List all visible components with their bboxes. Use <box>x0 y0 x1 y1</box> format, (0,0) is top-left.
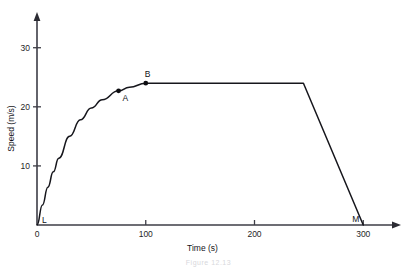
point-marker-B <box>143 81 148 86</box>
y-axis-arrowhead <box>34 12 41 21</box>
speed-time-chart: 0100200300 102030 Time (s) Speed (m/s) L… <box>0 0 417 258</box>
figure-caption: Figure 12.13 <box>0 259 417 267</box>
point-marker-A <box>116 88 121 93</box>
x-axis-ticks: 0100200300 <box>35 220 371 239</box>
point-label-A: A <box>123 93 129 103</box>
y-tick-label: 30 <box>21 43 31 53</box>
y-axis-title: Speed (m/s) <box>6 105 16 151</box>
x-axis-arrowhead <box>392 222 401 229</box>
x-axis-title: Time (s) <box>187 243 218 253</box>
point-label-M: M <box>352 214 359 224</box>
y-tick-label: 20 <box>21 102 31 112</box>
speed-time-graph-figure: 0100200300 102030 Time (s) Speed (m/s) L… <box>0 0 417 268</box>
point-label-L: L <box>42 215 47 225</box>
speed-time-curve <box>37 83 363 225</box>
x-tick-label: 0 <box>35 229 40 239</box>
y-tick-label: 10 <box>21 161 31 171</box>
x-tick-label: 100 <box>139 229 153 239</box>
x-tick-label: 300 <box>356 229 370 239</box>
annotation-group: LABM <box>42 69 359 225</box>
y-axis-ticks: 102030 <box>21 43 41 171</box>
axes-group <box>34 12 401 228</box>
x-tick-label: 200 <box>247 229 261 239</box>
data-series-group <box>37 83 363 225</box>
point-label-B: B <box>145 69 151 79</box>
